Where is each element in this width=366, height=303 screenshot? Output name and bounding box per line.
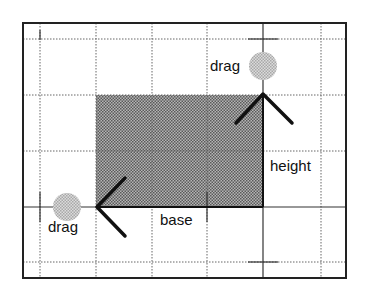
height-label: height xyxy=(270,157,312,174)
drag-label-left: drag xyxy=(48,218,78,235)
base-label: base xyxy=(160,211,193,228)
resize-diagram: drag drag height base xyxy=(0,0,366,303)
drag-handle-top[interactable] xyxy=(249,52,277,80)
drag-label-top: drag xyxy=(210,57,240,74)
drag-handle-left[interactable] xyxy=(53,193,81,221)
